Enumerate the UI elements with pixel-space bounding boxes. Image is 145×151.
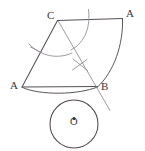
compass-cross-mark bbox=[73, 59, 88, 71]
label-vertex-a-top: A bbox=[126, 8, 134, 19]
segment-top-edge-CA bbox=[58, 19, 123, 21]
arc-minor-A-to-B bbox=[23, 87, 98, 93]
label-vertex-b: B bbox=[101, 81, 108, 92]
label-vertex-c: C bbox=[47, 10, 54, 21]
figure-canvas bbox=[0, 0, 145, 151]
segment-left-edge-CA bbox=[22, 21, 58, 88]
arc-compass-near-C bbox=[71, 10, 89, 51]
label-circle-center-o: O bbox=[70, 117, 78, 128]
tick-mark-left-edge bbox=[31, 47, 42, 53]
label-vertex-a-left: A bbox=[10, 80, 18, 91]
arc-compass-left-edge bbox=[29, 44, 72, 56]
construction-ray-C-through-B bbox=[59, 22, 111, 111]
arc-major-A-to-B bbox=[98, 19, 123, 88]
segment-bottom-edge-AB bbox=[22, 87, 98, 88]
geometry-figure: C A A B O bbox=[0, 0, 145, 151]
